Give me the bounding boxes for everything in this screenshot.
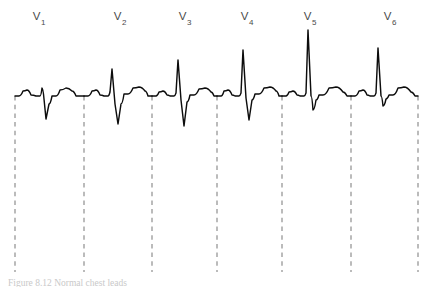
lead-label-subscript: 3	[187, 18, 192, 27]
lead-label-v1: V1	[33, 10, 46, 22]
lead-label-subscript: 5	[312, 18, 317, 27]
ecg-figure: V1V2V3V4V5V6 Figure 8.12 Normal chest le…	[0, 0, 433, 287]
lead-label-v5: V5	[304, 10, 317, 22]
lead-label-letter: V	[241, 10, 249, 22]
ecg-trace-v3	[152, 60, 217, 126]
lead-label-letter: V	[179, 10, 187, 22]
lead-label-letter: V	[114, 10, 122, 22]
lead-label-subscript: 2	[122, 18, 127, 27]
ecg-chart	[0, 0, 433, 287]
lead-label-subscript: 1	[41, 18, 46, 27]
lead-label-subscript: 4	[249, 18, 254, 27]
ecg-trace-v6	[351, 48, 418, 106]
lead-label-v6: V6	[384, 10, 397, 22]
lead-label-letter: V	[304, 10, 312, 22]
lead-label-letter: V	[384, 10, 392, 22]
lead-label-v2: V2	[114, 10, 127, 22]
divider-lines	[15, 96, 418, 272]
ecg-trace-v4	[217, 50, 282, 120]
ecg-trace-v5	[282, 30, 351, 110]
lead-label-letter: V	[33, 10, 41, 22]
lead-label-v3: V3	[179, 10, 192, 22]
ecg-trace-v1	[15, 88, 84, 119]
lead-label-subscript: 6	[392, 18, 397, 27]
ecg-trace-group	[15, 30, 418, 126]
figure-caption: Figure 8.12 Normal chest leads	[8, 278, 127, 287]
lead-label-v4: V4	[241, 10, 254, 22]
ecg-trace-v2	[84, 69, 152, 124]
